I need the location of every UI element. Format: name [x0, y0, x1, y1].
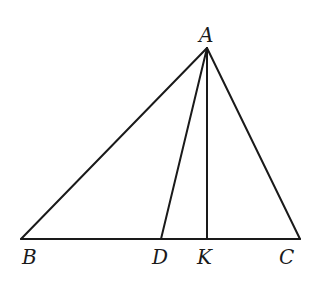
segment-ac [207, 48, 300, 239]
label-a: A [197, 23, 213, 47]
segment-ab [21, 48, 207, 239]
label-c: C [279, 245, 294, 269]
label-k: K [196, 245, 213, 269]
triangle-diagram: A B D K C [0, 0, 323, 285]
label-d: D [151, 245, 168, 269]
label-b: B [21, 245, 37, 269]
segment-ad [161, 48, 207, 239]
